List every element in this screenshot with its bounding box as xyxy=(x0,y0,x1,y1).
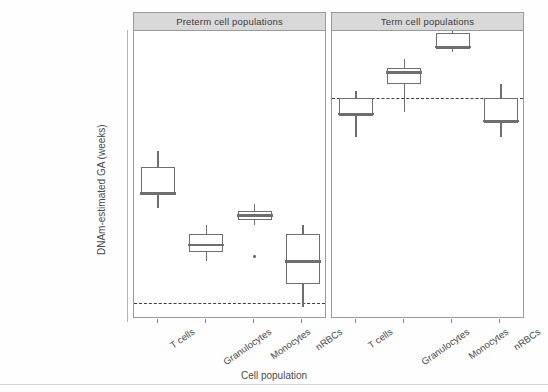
panel-strip-label: Term cell populations xyxy=(332,13,523,31)
boxplot-granulocytes xyxy=(387,31,421,317)
whisker-lower xyxy=(404,84,405,112)
median-line xyxy=(435,46,471,48)
x-axis-tick xyxy=(451,319,452,323)
median-line xyxy=(188,244,224,246)
whisker-upper xyxy=(254,204,255,211)
whisker-upper xyxy=(500,84,501,98)
whisker-upper xyxy=(206,225,207,234)
figure-bottom-rule xyxy=(0,384,548,385)
chart-figure: DNAm-estimated GA (weeks) 30333639 Prete… xyxy=(0,0,548,392)
outlier-point xyxy=(253,255,256,258)
boxplot-monocytes xyxy=(238,31,272,317)
box-iqr xyxy=(189,234,223,252)
whisker-lower xyxy=(157,195,158,209)
plot-area xyxy=(134,31,325,317)
x-axis-tick-label: Monocytes xyxy=(466,326,510,361)
median-line xyxy=(483,120,519,122)
x-axis-tick-label: Granulocytes xyxy=(419,326,471,367)
whisker-lower xyxy=(206,252,207,261)
whisker-upper xyxy=(157,151,158,167)
plot-area xyxy=(332,31,523,317)
box-iqr xyxy=(141,167,175,195)
whisker-lower xyxy=(452,49,453,51)
x-axis-tick xyxy=(157,319,158,323)
boxplot-granulocytes xyxy=(189,31,223,317)
boxplot-t-cells xyxy=(141,31,175,317)
box-iqr xyxy=(387,68,421,84)
chart-panel: Preterm cell populations xyxy=(133,12,326,318)
y-axis: 30333639 xyxy=(0,0,133,392)
whisker-upper xyxy=(404,59,405,68)
x-axis-tick xyxy=(253,319,254,323)
y-axis-line xyxy=(127,30,128,322)
x-axis-tick-label: nRBCs xyxy=(313,326,344,352)
whisker-lower xyxy=(355,116,356,137)
x-axis-tick-label: T cells xyxy=(168,326,197,351)
median-line xyxy=(285,260,321,262)
boxplot-t-cells xyxy=(339,31,373,317)
whisker-upper xyxy=(355,91,356,98)
x-axis-tick xyxy=(499,319,500,323)
x-axis-title: Cell population xyxy=(0,370,548,381)
chart-panel: Term cell populations xyxy=(331,12,524,318)
boxplot-nrbcs xyxy=(286,31,320,317)
x-axis-tick-label: nRBCs xyxy=(511,326,542,352)
whisker-lower xyxy=(500,123,501,137)
x-axis-tick xyxy=(205,319,206,323)
x-axis-tick xyxy=(403,319,404,323)
x-axis-tick xyxy=(301,319,302,323)
median-line xyxy=(140,192,176,194)
x-axis-tick-label: T cells xyxy=(366,326,395,351)
median-line xyxy=(237,214,273,216)
whisker-lower xyxy=(302,284,303,307)
x-axis-tick-label: Granulocytes xyxy=(221,326,273,367)
median-line xyxy=(386,71,422,73)
panel-strip-label: Preterm cell populations xyxy=(134,13,325,31)
boxplot-monocytes xyxy=(436,31,470,317)
box-iqr xyxy=(286,234,320,285)
whisker-lower xyxy=(254,220,255,225)
x-axis-tick-label: Monocytes xyxy=(268,326,312,361)
median-line xyxy=(338,113,374,115)
x-axis-tick xyxy=(355,319,356,323)
whisker-upper xyxy=(302,225,303,234)
boxplot-nrbcs xyxy=(484,31,518,317)
